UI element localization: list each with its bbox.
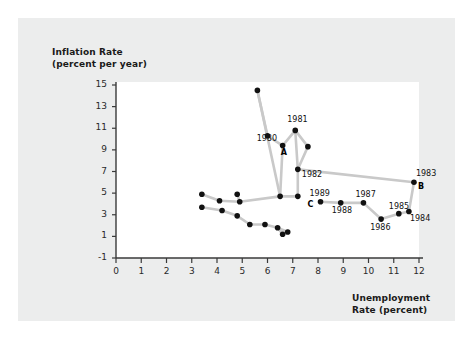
x-tick-label: 4 — [209, 266, 225, 276]
x-tick-label: 11 — [386, 266, 402, 276]
data-point — [237, 199, 243, 205]
point-year-label: 1987 — [355, 190, 375, 199]
data-point — [247, 222, 253, 228]
point-year-label: 1982 — [302, 170, 322, 179]
x-tick-label: 2 — [159, 266, 175, 276]
x-tick-label: 10 — [361, 266, 377, 276]
data-point — [234, 213, 240, 219]
x-tick-label: 0 — [108, 266, 124, 276]
point-marker-label-a: A — [281, 148, 287, 157]
data-point — [378, 216, 384, 222]
scatter-plot — [0, 0, 472, 343]
y-tick-label: 9 — [87, 144, 107, 154]
data-point — [295, 194, 301, 200]
x-tick-label: 12 — [411, 266, 427, 276]
point-marker-label-b: B — [418, 182, 424, 191]
point-year-label: 1986 — [370, 223, 390, 232]
data-point — [338, 200, 344, 206]
point-year-label: 1989 — [310, 189, 330, 198]
data-point — [199, 191, 205, 197]
connector-line — [220, 201, 240, 202]
y-tick-label: 11 — [87, 122, 107, 132]
x-tick-label: 9 — [335, 266, 351, 276]
x-tick-label: 1 — [133, 266, 149, 276]
y-tick-label: 1 — [87, 230, 107, 240]
x-tick-label: 3 — [184, 266, 200, 276]
x-tick-label: 5 — [234, 266, 250, 276]
data-point — [219, 208, 225, 214]
point-year-label: 1983 — [416, 169, 436, 178]
x-tick-label: 7 — [285, 266, 301, 276]
data-point — [277, 194, 283, 200]
data-point — [217, 198, 223, 204]
data-point — [234, 191, 240, 197]
data-point — [295, 167, 301, 173]
point-year-label: 1985 — [389, 202, 409, 211]
data-point — [292, 128, 298, 134]
data-point — [280, 231, 286, 237]
connector-line — [321, 202, 341, 203]
data-point — [411, 180, 417, 186]
point-year-label: 1984 — [410, 214, 430, 223]
data-point — [285, 229, 291, 235]
point-marker-label-c: C — [308, 200, 314, 209]
data-point — [275, 225, 281, 231]
data-point — [255, 88, 261, 94]
y-tick-label: 13 — [87, 101, 107, 111]
y-tick-label: 5 — [87, 187, 107, 197]
data-point — [361, 200, 367, 206]
point-year-label: 1988 — [332, 206, 352, 215]
data-point — [262, 222, 268, 228]
y-tick-label: -1 — [87, 252, 107, 262]
figure-container: Inflation Rate (percent per year) Unempl… — [0, 0, 472, 343]
point-year-label: 1981 — [287, 115, 307, 124]
y-tick-label: 15 — [87, 79, 107, 89]
x-tick-label: 6 — [260, 266, 276, 276]
x-tick-label: 8 — [310, 266, 326, 276]
data-point — [396, 211, 402, 217]
y-tick-label: 3 — [87, 209, 107, 219]
point-year-label: 1980 — [257, 134, 277, 143]
data-point — [199, 204, 205, 210]
data-point — [318, 199, 324, 205]
y-tick-label: 7 — [87, 166, 107, 176]
data-point — [305, 144, 311, 150]
